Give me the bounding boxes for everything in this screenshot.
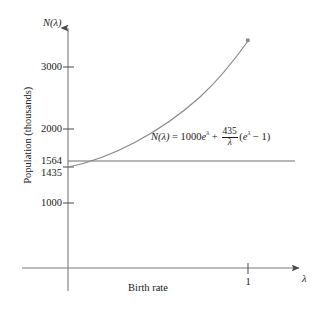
y-axis-symbol-text: N(λ) [43, 17, 62, 28]
equation-fraction-denominator: λ [222, 138, 238, 148]
curve-equation-annotation: N(λ)=1000eλ+435λ(eλ−1) [151, 127, 270, 148]
y-tick-2000: 2000 [22, 123, 62, 135]
x-tick-1: 1 [238, 276, 258, 287]
population-curve [68, 41, 248, 167]
curve-endpoint-marker [246, 39, 250, 43]
y-tick-1564: 1564 [22, 155, 62, 167]
y-tick-1000: 1000 [22, 197, 62, 209]
equation-paren-close: ) [267, 131, 271, 142]
x-axis-symbol: λ [302, 274, 307, 285]
y-tick-label: 1435 [22, 167, 62, 178]
equation-equals: = [170, 131, 181, 142]
x-tick-label: 1 [245, 276, 250, 287]
equation-fraction: 435λ [222, 127, 238, 148]
equation-plus: + [209, 131, 220, 142]
x-axis-symbol-text: λ [302, 273, 307, 284]
equation-coefficient: 1000 [180, 131, 201, 142]
y-axis-title: Population (thousands) [23, 60, 34, 210]
x-axis-title-text: Birth rate [128, 282, 168, 293]
y-tick-label: 3000 [22, 61, 62, 72]
y-tick-label: 1564 [22, 155, 62, 166]
y-tick-3000: 3000 [22, 61, 62, 73]
y-tick-label: 1000 [22, 197, 62, 208]
equation-fraction-numerator: 435 [222, 127, 238, 138]
equation-minus: − [251, 131, 262, 142]
figure-container: N(λ) λ Population (thousands) Birth rate… [0, 0, 320, 313]
equation-lhs: N(λ) [151, 131, 170, 142]
y-tick-label: 2000 [22, 123, 62, 134]
y-axis-symbol: N(λ) [43, 18, 62, 29]
x-axis-title: Birth rate [128, 283, 168, 294]
y-tick-1435: 1435 [22, 167, 62, 179]
